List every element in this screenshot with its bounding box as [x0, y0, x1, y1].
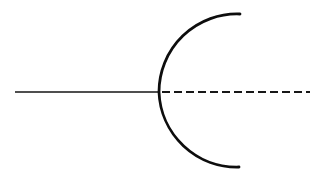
geometry-diagram	[0, 0, 322, 178]
figure-canvas	[0, 0, 322, 178]
concave-arc-curve	[159, 14, 240, 167]
